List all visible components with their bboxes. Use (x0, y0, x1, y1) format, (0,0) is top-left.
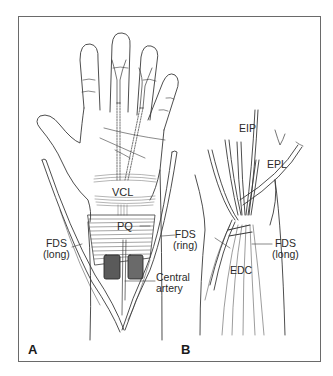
central-artery (122, 240, 126, 315)
anatomy-illustration (0, 0, 333, 376)
label-central-artery: Central artery (156, 272, 190, 294)
label-fds-long-b: FDS (long) (272, 238, 299, 260)
label-eip: EIP (239, 123, 256, 134)
label-edc: EDC (230, 265, 252, 276)
label-fds-long-b-line2: (long) (272, 249, 299, 260)
label-fds-ring: FDS (ring) (173, 229, 198, 251)
panel-label-b: B (181, 342, 190, 357)
label-vcl: VCL (112, 187, 133, 198)
label-fds-long-a-line2: (long) (43, 249, 70, 260)
panel-label-a: A (28, 342, 37, 357)
dorsal-wrist (195, 110, 303, 335)
label-fds-ring-line2: (ring) (173, 240, 198, 251)
label-central-artery-line2: artery (156, 283, 190, 294)
bone-windows (104, 255, 143, 279)
flexor-tendon-slips (112, 60, 152, 180)
label-epl: EPL (267, 159, 287, 170)
label-pq: PQ (117, 221, 133, 232)
label-fds-long-a: FDS (long) (43, 238, 70, 260)
